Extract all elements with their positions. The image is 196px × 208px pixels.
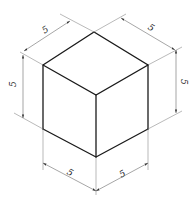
dim-top-right (121, 18, 175, 50)
label-left-vertical: 5 (8, 81, 18, 87)
dim-top-left (24, 21, 70, 51)
cube-bottom-right-edge (96, 129, 148, 157)
dimension-lines (23, 18, 176, 191)
isometric-cube-diagram: 5 5 5 5 5 5 (0, 0, 196, 208)
label-top-left: 5 (40, 24, 50, 36)
label-right-vertical: 5 (179, 79, 189, 85)
label-bottom-left: 5 (65, 167, 75, 179)
cube (43, 32, 148, 157)
cube-top-face (43, 32, 148, 95)
label-bottom-right: 5 (117, 168, 127, 180)
cube-bottom-left-edge (43, 129, 96, 157)
label-top-right: 5 (146, 22, 156, 34)
